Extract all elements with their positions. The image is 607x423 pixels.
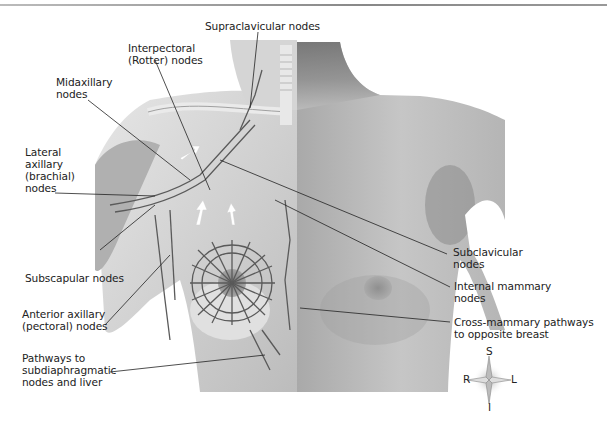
label-subscapular-nodes: Subscapular nodes xyxy=(25,272,124,284)
compass-inferior: I xyxy=(488,401,491,413)
label-anterior-axillary-nodes: Anterior axillary(pectoral) nodes xyxy=(22,308,107,332)
label-supraclavicular-nodes: Supraclavicular nodes xyxy=(205,20,320,32)
dissected-half xyxy=(95,40,297,392)
label-interpectoral-nodes: Interpectoral(Rotter) nodes xyxy=(128,42,203,66)
label-cross-mammary-pathways: Cross-mammary pathwaysto opposite breast xyxy=(454,316,594,340)
compass-left: L xyxy=(511,373,517,385)
label-lateral-axillary-nodes: Lateralaxillary (brachial)nodes xyxy=(25,146,75,194)
compass-right: R xyxy=(463,373,470,385)
compass-superior: S xyxy=(486,345,493,357)
label-subdiaphragmatic-pathways: Pathways tosubdiaphragmatic nodes and li… xyxy=(22,352,116,388)
compass-labels: S R L I xyxy=(458,345,518,415)
label-midaxillary-nodes: Midaxillarynodes xyxy=(56,76,112,100)
label-internal-mammary-nodes: Internal mammarynodes xyxy=(454,280,551,304)
label-subclavicular-nodes: Subclavicularnodes xyxy=(453,246,523,270)
